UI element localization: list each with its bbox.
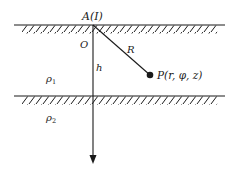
depth-label: h	[96, 62, 102, 73]
arrow-down-icon	[90, 155, 97, 164]
distance-label: R	[126, 44, 135, 55]
z-axis	[90, 25, 97, 164]
layer-interface	[14, 96, 225, 105]
surface-boundary	[14, 25, 225, 34]
point-label: P(r, φ, z)	[156, 69, 202, 81]
diagram-canvas: A(I) O R P(r, φ, z) h ρ1 ρ2	[0, 0, 241, 175]
point-p-marker	[147, 72, 154, 79]
layer1-density-label: ρ1	[45, 73, 56, 86]
origin-label: O	[80, 39, 88, 50]
source-label: A(I)	[81, 10, 103, 23]
layer2-density-label: ρ2	[45, 112, 56, 125]
